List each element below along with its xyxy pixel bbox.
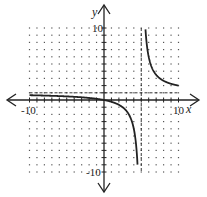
rational-function-graph: y x -10 10 10 -10 bbox=[0, 0, 207, 197]
x-min-tick-label: -10 bbox=[21, 104, 36, 116]
y-max-tick-label: 10 bbox=[92, 22, 104, 34]
y-axis-label: y bbox=[91, 5, 98, 19]
axes bbox=[7, 5, 199, 192]
x-axis-label: x bbox=[185, 102, 192, 116]
x-max-tick-label: 10 bbox=[173, 104, 185, 116]
y-min-tick-label: -10 bbox=[86, 166, 101, 178]
